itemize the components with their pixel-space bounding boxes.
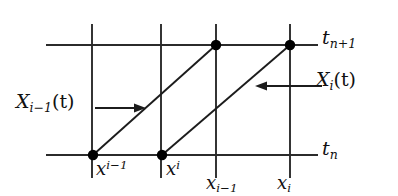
point-x-sub-i: [285, 40, 295, 50]
label-characteristic-xim1: Xi−1(t): [16, 92, 74, 111]
characteristic-line-im1: [93, 45, 216, 155]
arrow-head-right-icon: [134, 103, 146, 112]
arrow-head-left-icon: [255, 81, 267, 90]
characteristic-lines: [93, 45, 290, 155]
label-time-level-tn: tn: [322, 139, 338, 158]
point-x-sub-im1: [211, 40, 221, 50]
label-foot-x-sub-im1: xi−1: [206, 174, 237, 192]
characteristic-line-i: [162, 45, 290, 155]
node-points: [88, 40, 295, 160]
label-foot-x-sup-im1: xi−1: [96, 160, 127, 178]
characteristics-diagram: tn+1 tn Xi(t) Xi−1(t) xi−1 xi xi−1 xi: [0, 0, 398, 196]
annotation-arrows: [95, 81, 322, 112]
label-characteristic-xi: Xi(t): [316, 70, 356, 89]
label-foot-x-sub-i: xi: [277, 174, 291, 192]
label-foot-x-sup-i: xi: [166, 160, 180, 178]
label-time-level-tn1: tn+1: [322, 28, 356, 47]
